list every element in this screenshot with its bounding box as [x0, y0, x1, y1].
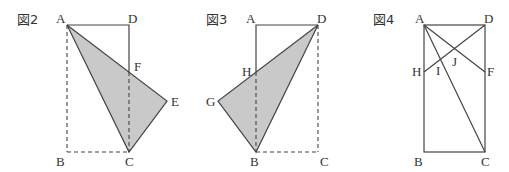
figure-3: 図3 A D H G B C — [206, 11, 329, 169]
folded-triangle-dgb — [218, 25, 318, 152]
label-h: H — [412, 64, 421, 79]
label-c: C — [320, 154, 329, 169]
label-a: A — [56, 11, 66, 26]
label-j: J — [452, 54, 457, 69]
label-c: C — [481, 154, 490, 169]
segment-ac — [424, 25, 485, 152]
label-d: D — [317, 11, 326, 26]
label-b: B — [56, 154, 65, 169]
figure-2-title: 図2 — [17, 12, 38, 27]
label-i: I — [436, 63, 440, 78]
figure-4-title: 図4 — [373, 12, 394, 27]
label-b: B — [414, 154, 423, 169]
label-b: B — [250, 154, 259, 169]
label-e: E — [171, 94, 179, 109]
label-d: D — [484, 11, 493, 26]
label-h: H — [242, 64, 251, 79]
label-f: F — [134, 59, 141, 74]
label-c: C — [125, 154, 134, 169]
label-a: A — [415, 11, 425, 26]
figure-4: 図4 A D H I J F B C — [373, 11, 494, 169]
label-g: G — [206, 94, 215, 109]
label-d: D — [128, 11, 137, 26]
label-f: F — [487, 64, 494, 79]
folded-triangle-ace — [67, 25, 167, 152]
figure-3-title: 図3 — [206, 12, 227, 27]
figure-2: 図2 A D F E B C — [17, 11, 179, 169]
geometry-figures: 図2 A D F E B C 図3 A D H G B C 図4 A D H — [0, 0, 509, 172]
label-a: A — [246, 11, 256, 26]
